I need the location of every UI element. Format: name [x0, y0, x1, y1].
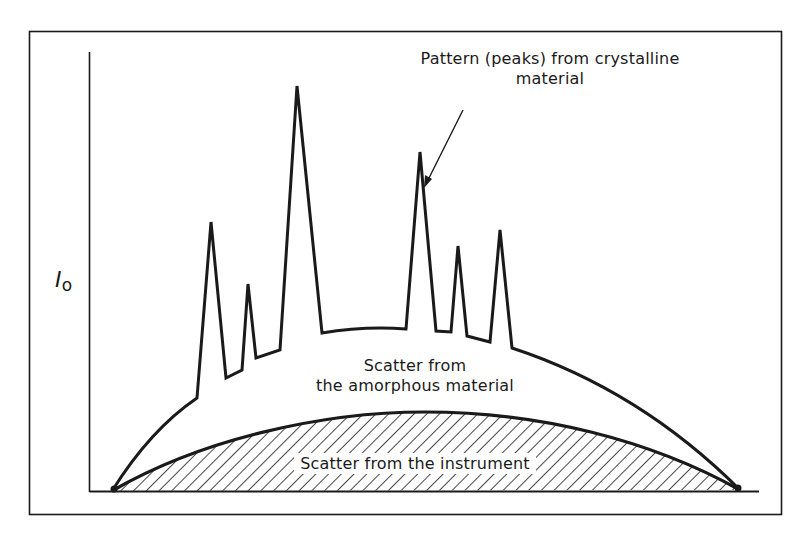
amorphous-line-2: the amorphous material	[290, 376, 540, 396]
arrow-head-icon	[424, 175, 432, 188]
instrument-label: Scatter from the instrument	[294, 453, 536, 474]
amorphous-annotation: Scatter from the amorphous material	[290, 356, 540, 396]
annotation-arrow	[427, 110, 463, 182]
annotation-line-1: Pattern (peaks) from crystalline	[400, 49, 700, 69]
y-axis-symbol: I	[55, 267, 62, 292]
y-axis-label: Io	[55, 270, 72, 291]
instrument-annotation: Scatter from the instrument	[270, 454, 560, 474]
crystalline-annotation: Pattern (peaks) from crystalline materia…	[400, 49, 700, 89]
annotation-line-2: material	[400, 69, 700, 89]
left-origin-blob	[111, 486, 118, 493]
right-end-blob	[735, 485, 742, 492]
amorphous-line-1: Scatter from	[290, 356, 540, 376]
y-axis-subscript: o	[62, 275, 73, 295]
instrument-scatter-region	[112, 412, 740, 491]
